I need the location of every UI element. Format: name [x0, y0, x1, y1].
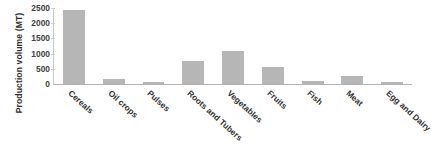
- bar-oil-crops[interactable]: [103, 79, 125, 84]
- bar-slot: [293, 8, 333, 84]
- bar-slot: [54, 8, 94, 84]
- bar-slot: [372, 8, 412, 84]
- x-label-slot: Meat: [331, 86, 371, 160]
- x-label-slot: Roots and Tubers: [172, 86, 212, 160]
- x-tick-label-egg-and-dairy: Egg and Dairy: [384, 88, 433, 133]
- y-tick-label-1500: 1500: [22, 34, 50, 42]
- bar-cereals[interactable]: [63, 10, 85, 84]
- x-label-slot: Egg and Dairy: [371, 86, 411, 160]
- bar-slot: [213, 8, 253, 84]
- y-tick-label-2500: 2500: [22, 4, 50, 12]
- x-tick-label-pulses: Pulses: [146, 88, 173, 114]
- bar-slot: [253, 8, 293, 84]
- bar-chart-figure: Production volume (MT) 0 500 1000 1500 2…: [0, 0, 439, 162]
- x-label-slot: Vegetables: [212, 86, 252, 160]
- bar-slot: [94, 8, 134, 84]
- x-label-slot: Fruits: [252, 86, 292, 160]
- x-label-slot: Fish: [292, 86, 332, 160]
- x-tick-label-fish: Fish: [305, 88, 325, 107]
- x-label-slot: Oil crops: [93, 86, 133, 160]
- bar-slot: [134, 8, 174, 84]
- bar-series: [54, 8, 412, 84]
- bar-slot: [332, 8, 372, 84]
- x-axis-tick-labels: CerealsOil cropsPulsesRoots and TubersVe…: [53, 86, 411, 160]
- plot-area: [53, 8, 412, 85]
- bar-egg-and-dairy[interactable]: [381, 82, 403, 84]
- bar-slot: [173, 8, 213, 84]
- y-tick-label-0: 0: [22, 80, 50, 88]
- x-tick-label-cereals: Cereals: [66, 88, 95, 116]
- bar-vegetables[interactable]: [222, 51, 244, 84]
- y-tick-label-500: 500: [22, 65, 50, 73]
- bar-roots-and-tubers[interactable]: [182, 61, 204, 84]
- x-tick-label-meat: Meat: [345, 88, 366, 108]
- bar-pulses[interactable]: [143, 82, 165, 84]
- bar-fish[interactable]: [302, 81, 324, 84]
- x-label-slot: Pulses: [133, 86, 173, 160]
- x-label-slot: Cereals: [53, 86, 93, 160]
- bar-fruits[interactable]: [262, 67, 284, 84]
- y-tick-label-2000: 2000: [22, 19, 50, 27]
- y-tick-label-1000: 1000: [22, 50, 50, 58]
- bar-meat[interactable]: [341, 76, 363, 84]
- x-tick-label-fruits: Fruits: [265, 88, 289, 111]
- y-axis-tick-labels: 0 500 1000 1500 2000 2500: [22, 8, 50, 84]
